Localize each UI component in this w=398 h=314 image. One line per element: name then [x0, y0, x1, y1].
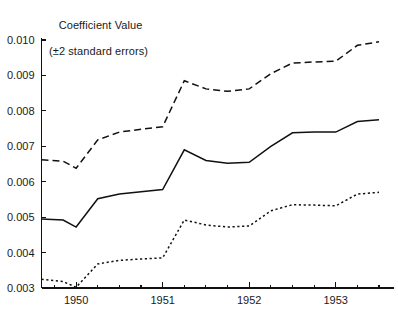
y-axis-tick-label: 0.004	[7, 247, 35, 259]
y-axis-tick-label: 0.009	[7, 69, 35, 81]
x-axis-tick-label: 1951	[150, 294, 174, 306]
y-axis-tick-label: 0.003	[7, 282, 35, 294]
y-axis-tick-label: 0.006	[7, 176, 35, 188]
x-axis-tick-label: 1950	[64, 294, 88, 306]
y-axis-tick-label: 0.005	[7, 211, 35, 223]
series-point-estimate	[42, 120, 380, 227]
y-axis-tick-label: 0.007	[7, 140, 35, 152]
y-axis-tick-label: 0.010	[7, 34, 35, 46]
data-series-group	[42, 42, 380, 288]
x-axis-tick-marks	[54, 282, 379, 288]
series-upper-bound	[42, 42, 380, 168]
chart-container: Coefficient Value (±2 standard errors) 0…	[0, 0, 398, 314]
plot-area: 0.0030.0040.0050.0060.0070.0080.0090.010…	[0, 0, 398, 314]
x-axis-tick-labels: 1950195119521953	[64, 294, 348, 306]
y-axis-tick-labels: 0.0030.0040.0050.0060.0070.0080.0090.010	[7, 34, 35, 294]
x-axis-tick-label: 1952	[237, 294, 261, 306]
x-axis-tick-label: 1953	[324, 294, 348, 306]
y-axis-tick-label: 0.008	[7, 105, 35, 117]
